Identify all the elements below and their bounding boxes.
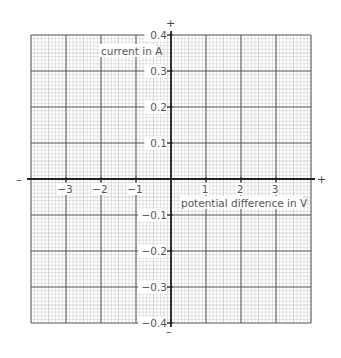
y-tick-label: −0.2 [142,245,168,257]
x-axis-title: potential difference in V [181,197,308,209]
x-negative-sign: – [16,173,22,186]
y-tick-label: 0.4 [150,29,167,41]
x-tick-label: −2 [92,183,107,195]
graph-paper-chart: −3−2−11230.40.30.20.1−0.1−0.2−0.3−0.4 cu… [0,0,341,358]
x-tick-label: 3 [272,183,279,195]
y-tick-label: −0.1 [142,209,168,221]
x-tick-label: 2 [237,183,244,195]
y-tick-label: 0.3 [150,65,167,77]
x-positive-sign: + [317,173,326,186]
y-positive-sign: + [166,17,175,30]
x-tick-label: 1 [202,183,209,195]
axes [27,31,315,327]
x-tick-label: −1 [127,183,142,195]
y-tick-label: −0.4 [142,317,168,329]
y-negative-sign: – [166,325,172,338]
y-tick-label: 0.2 [150,101,167,113]
x-tick-label: −3 [57,183,72,195]
y-tick-label: 0.1 [150,137,167,149]
y-tick-label: −0.3 [142,281,168,293]
y-axis-title: current in A [101,45,163,57]
